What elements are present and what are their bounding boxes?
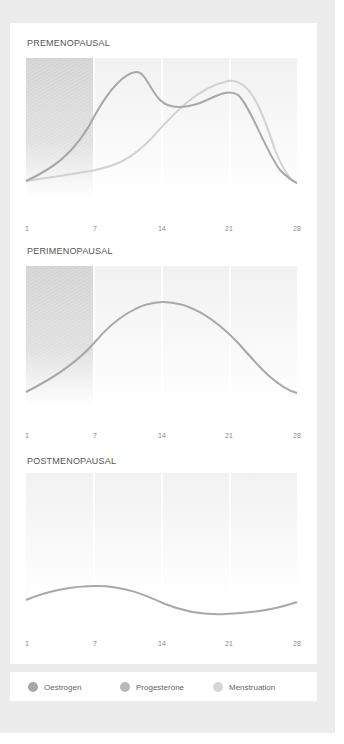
week-4-column [231, 266, 297, 406]
x-tick: 21 [225, 640, 233, 647]
legend-label: Progesterone [136, 683, 184, 692]
week-2-column [95, 473, 161, 598]
x-tick: 7 [93, 640, 97, 647]
postmenopausal-plot [26, 473, 297, 614]
week-1-column [26, 473, 93, 598]
week-2-column [95, 266, 161, 406]
x-tick: 14 [158, 640, 166, 647]
x-tick: 28 [293, 640, 301, 647]
x-tick: 21 [225, 432, 233, 439]
menstruation-swatch-icon [213, 682, 223, 692]
x-tick: 1 [25, 225, 29, 232]
x-tick: 21 [225, 225, 233, 232]
x-tick: 28 [293, 432, 301, 439]
panel-title-perimenopausal: PERIMENOPAUSAL [27, 246, 113, 256]
x-tick: 1 [25, 432, 29, 439]
week-3-column [163, 58, 229, 198]
hormone-charts [0, 0, 344, 744]
legend-item-progesterone: Progesterone [120, 681, 184, 693]
week-4-column [231, 473, 297, 598]
x-tick: 7 [93, 432, 97, 439]
perimenopausal-plot [26, 266, 297, 406]
legend-item-menstruation: Menstruation [213, 681, 275, 693]
premenopausal-plot [26, 58, 297, 198]
x-tick: 14 [158, 432, 166, 439]
x-tick: 14 [158, 225, 166, 232]
week-3-column [163, 473, 229, 598]
oestrogen-swatch-icon [28, 682, 38, 692]
week-2-column [95, 58, 161, 198]
legend-item-oestrogen: Oestrogen [28, 681, 81, 693]
progesterone-swatch-icon [120, 682, 130, 692]
x-tick: 7 [93, 225, 97, 232]
week-3-column [163, 266, 229, 406]
panel-title-premenopausal: PREMENOPAUSAL [27, 38, 110, 48]
legend-label: Menstruation [229, 683, 275, 692]
x-tick: 28 [293, 225, 301, 232]
legend-label: Oestrogen [44, 683, 81, 692]
panel-title-postmenopausal: POSTMENOPAUSAL [27, 456, 116, 466]
x-tick: 1 [25, 640, 29, 647]
menstruation-shading [26, 266, 93, 406]
